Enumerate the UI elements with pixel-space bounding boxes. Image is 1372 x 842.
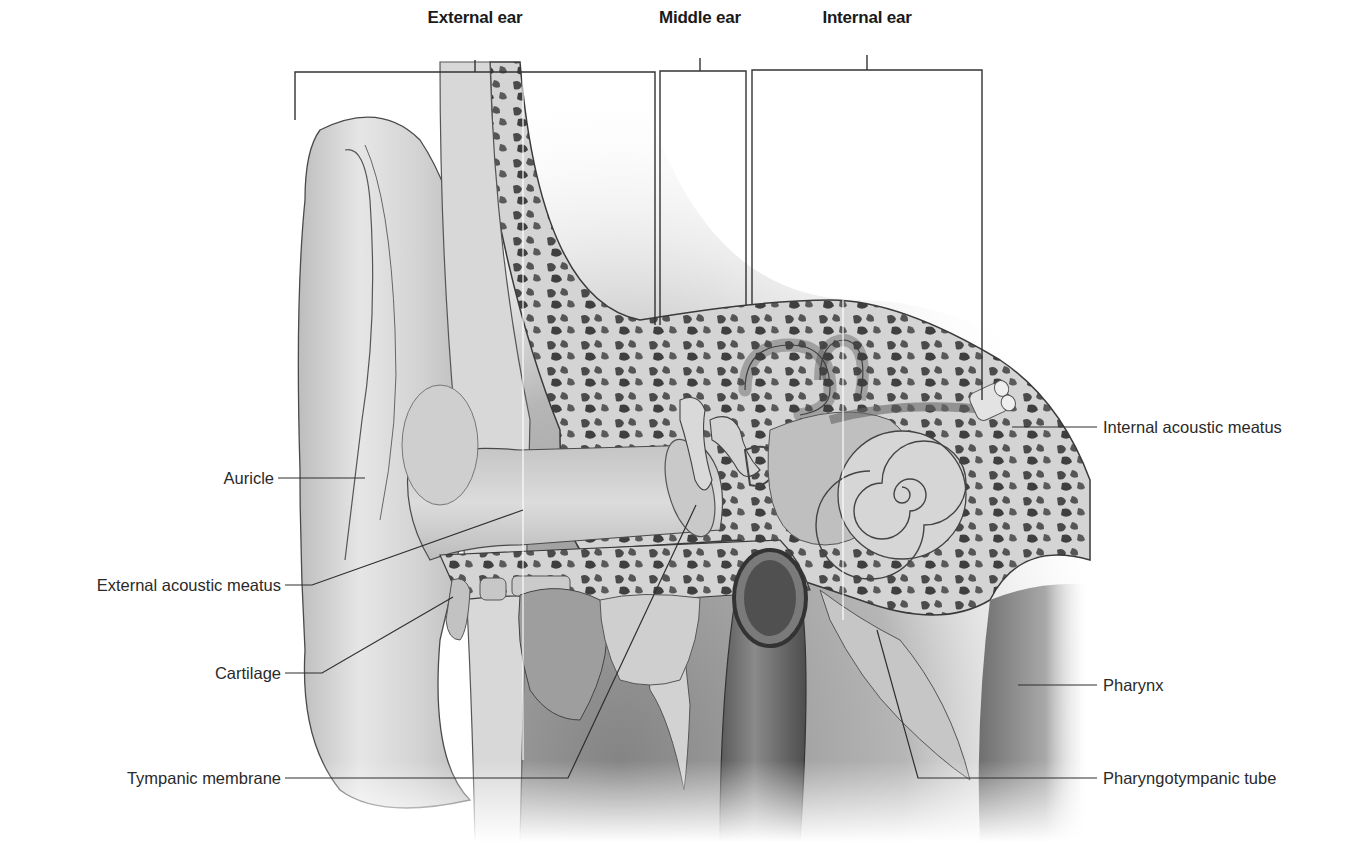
label-pharynx: Pharynx: [1103, 677, 1164, 694]
label-auricle: Auricle: [224, 470, 274, 487]
concha-shape: [402, 385, 478, 505]
ear-anatomy-diagram: External ear Middle ear Internal ear Aur…: [0, 0, 1372, 842]
label-cartilage: Cartilage: [215, 665, 281, 682]
region-title-external-ear: External ear: [428, 8, 523, 28]
label-tympanic-membrane: Tympanic membrane: [127, 770, 281, 787]
label-internal-acoustic-meatus: Internal acoustic meatus: [1103, 419, 1282, 436]
region-title-middle-ear: Middle ear: [659, 8, 741, 28]
label-external-acoustic-meatus: External acoustic meatus: [97, 577, 281, 594]
region-title-internal-ear: Internal ear: [822, 8, 911, 28]
label-pharyngotympanic-tube: Pharyngotympanic tube: [1103, 770, 1276, 787]
